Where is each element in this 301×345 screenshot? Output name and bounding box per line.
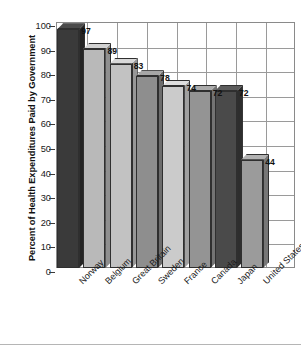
bar-sweden[interactable]	[136, 70, 164, 268]
y-tick-label: 0	[29, 267, 51, 277]
y-tick-mark	[49, 174, 55, 175]
bar-value-label: 72	[233, 88, 255, 98]
bar-great-britain[interactable]	[110, 58, 138, 268]
bar-front-face	[189, 91, 211, 268]
bar-front-face	[110, 64, 132, 268]
bar-front-face	[241, 160, 263, 268]
bar-norway[interactable]	[57, 23, 85, 268]
y-tick-label: 100	[29, 21, 51, 31]
y-tick-mark	[49, 26, 55, 27]
bar-front-face	[83, 49, 105, 268]
y-tick-label: 80	[29, 70, 51, 80]
y-tick-mark	[49, 149, 55, 150]
y-tick-label: 60	[29, 119, 51, 129]
bar-value-label: 97	[75, 26, 97, 36]
bar-front-face	[162, 86, 184, 268]
y-tick-mark	[49, 272, 55, 273]
y-tick-label: 40	[29, 169, 51, 179]
bar-value-label: 89	[101, 46, 123, 56]
y-axis-ticks: 0102030405060708090100	[26, 0, 51, 345]
y-tick-label: 90	[29, 46, 51, 56]
bar-value-label: 74	[180, 83, 202, 93]
y-tick-label: 20	[29, 218, 51, 228]
y-tick-label: 10	[29, 242, 51, 252]
bars-layer	[56, 22, 301, 272]
y-tick-mark	[49, 124, 55, 125]
bar-france[interactable]	[162, 80, 190, 268]
y-tick-mark	[49, 100, 55, 101]
bar-front-face	[57, 29, 79, 268]
bar-canada[interactable]	[189, 85, 217, 268]
bar-japan[interactable]	[215, 85, 243, 268]
bar-value-label: 72	[207, 88, 229, 98]
y-tick-mark	[49, 247, 55, 248]
bar-side-face	[263, 154, 269, 268]
y-tick-mark	[49, 75, 55, 76]
bar-value-label: 78	[154, 73, 176, 83]
y-tick-label: 70	[29, 95, 51, 105]
y-tick-mark	[49, 198, 55, 199]
y-tick-mark	[49, 223, 55, 224]
bar-front-face	[215, 91, 237, 268]
y-tick-mark	[49, 51, 55, 52]
y-tick-label: 30	[29, 193, 51, 203]
bar-united-states[interactable]	[241, 154, 269, 268]
bar-chart: Percent of Health Expenditures Paid by G…	[0, 0, 301, 345]
bar-belgium[interactable]	[83, 43, 111, 268]
bar-value-label: 44	[259, 157, 281, 167]
bar-front-face	[136, 76, 158, 268]
y-tick-label: 50	[29, 144, 51, 154]
bar-value-label: 83	[128, 61, 150, 71]
